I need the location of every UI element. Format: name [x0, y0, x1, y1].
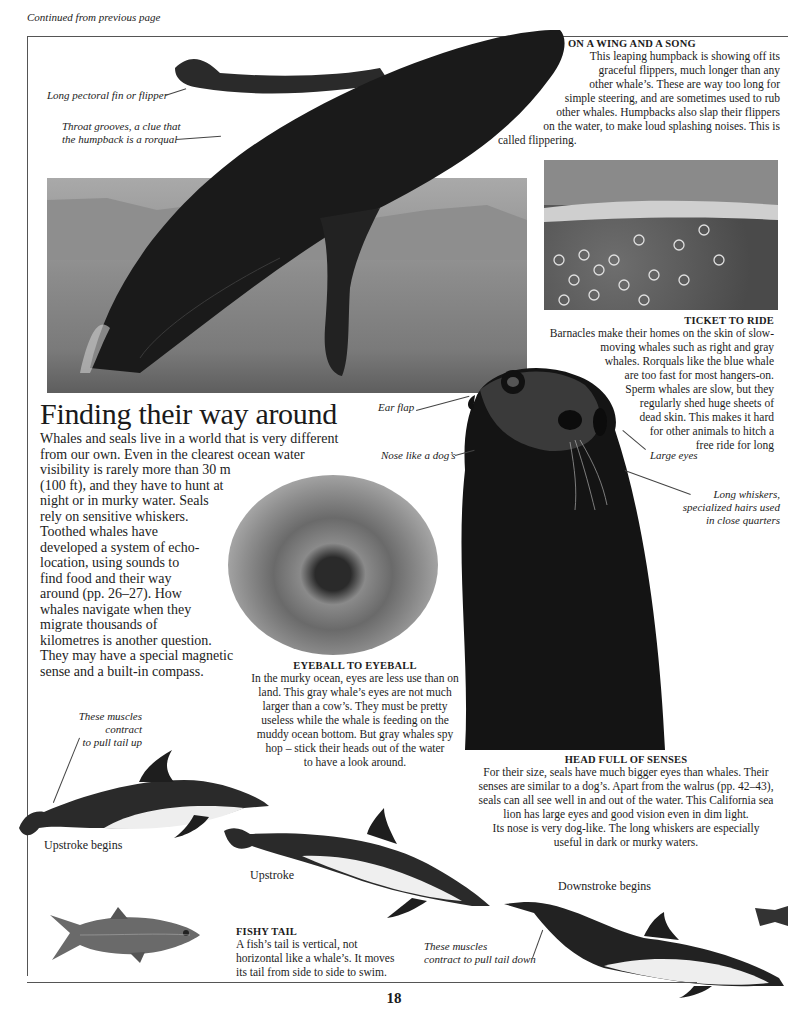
caption-line: simple steering, and are sometimes used …: [500, 91, 780, 105]
label-whiskers-line3: in close quarters: [660, 514, 780, 527]
caption-line: For their size, seals have much bigger e…: [468, 765, 784, 779]
caption-title: Ticket to ride: [520, 315, 774, 326]
caption-line: A fish’s tail is vertical, not: [236, 937, 446, 951]
caption-line: called flippering.: [498, 133, 780, 147]
caption-line: seals can all see well in and out of the…: [468, 793, 784, 807]
caption-line: useful in dark or murky waters.: [468, 835, 784, 849]
fish-illustration: [50, 905, 200, 965]
label-upstroke-begins: Upstroke begins: [44, 838, 122, 853]
dolphin-downstroke-begins: [504, 898, 788, 998]
caption-line: graceful flippers, much longer than any: [500, 63, 780, 77]
caption-line: lion has large eyes and good vision even…: [468, 807, 784, 821]
caption-line: This leaping humpback is showing off its: [500, 49, 780, 63]
caption-line: horizontal like a whale’s. It moves: [236, 951, 446, 965]
label-downstroke-begins: Downstroke begins: [558, 879, 651, 894]
caption-line: larger than a cow’s. They must be pretty: [220, 699, 490, 713]
caption-line: senses are similar to a dog’s. Apart fro…: [468, 779, 784, 793]
caption-line: its tail from side to side to swim.: [236, 965, 446, 979]
page-number: 18: [0, 990, 788, 1007]
caption-line: other whales. Humpbacks also slap their …: [500, 105, 780, 119]
caption-line: other whale’s. These are way too long fo…: [500, 77, 780, 91]
caption-line: land. This gray whale’s eyes are not muc…: [220, 685, 490, 699]
continued-note: Continued from previous page: [27, 11, 160, 23]
caption-title: Head full of senses: [468, 754, 784, 765]
caption-fishy-tail: Fishy tail A fish’s tail is vertical, no…: [236, 926, 446, 979]
label-whiskers: Long whiskers, specialized hairs used in…: [660, 488, 780, 527]
label-pectoral-fin: Long pectoral fin or flipper: [47, 89, 168, 102]
label-upstroke: Upstroke: [250, 868, 294, 883]
barnacles-photo: [544, 160, 778, 310]
page-title: Finding their way around: [40, 397, 337, 431]
caption-title: Eyeball to eyeball: [220, 660, 490, 671]
caption-wing-song: On a wing and a song This leaping humpba…: [500, 38, 780, 147]
caption-line: In the murky ocean, eyes are less use th…: [220, 671, 490, 685]
caption-title: Fishy tail: [236, 926, 446, 937]
caption-line: Barnacles make their homes on the skin o…: [520, 326, 774, 340]
barnacle-texture: [544, 160, 778, 310]
dolphin-upstroke: [222, 806, 492, 921]
label-throat-grooves: Throat grooves, a clue that the humpback…: [62, 120, 181, 146]
caption-line: muddy ocean bottom. But gray whales spy: [220, 727, 490, 741]
dolphin-tail-partial: [755, 900, 788, 930]
caption-line: moving whales such as right and gray: [520, 340, 774, 354]
label-muscles-up-line1: These muscles contract: [42, 710, 142, 736]
gray-whale-eye-photo: [228, 475, 438, 655]
frame-bottom-rule: [27, 982, 697, 983]
caption-line: Its nose is very dog-like. The long whis…: [468, 821, 784, 835]
label-ear-flap: Ear flap: [378, 401, 414, 414]
label-throat-grooves-line1: Throat grooves, a clue that: [62, 120, 181, 133]
caption-line: on the water, to make loud splashing noi…: [500, 119, 780, 133]
intro-line: from our own. Even in the clearest ocean…: [40, 447, 338, 463]
caption-head-senses: Head full of senses For their size, seal…: [468, 754, 784, 849]
caption-title: On a wing and a song: [500, 38, 780, 49]
intro-line: visibility is rarely more than 30 m: [40, 462, 338, 478]
label-whiskers-line2: specialized hairs used: [660, 501, 780, 514]
label-nose: Nose like a dog’s: [381, 449, 456, 462]
caption-line: useless while the whale is feeding on th…: [220, 713, 490, 727]
humpback-whale-illustration: [80, 28, 570, 378]
label-throat-grooves-line2: the humpback is a rorqual: [62, 133, 181, 146]
intro-line: Whales and seals live in a world that is…: [40, 431, 338, 447]
label-large-eyes: Large eyes: [650, 449, 698, 462]
